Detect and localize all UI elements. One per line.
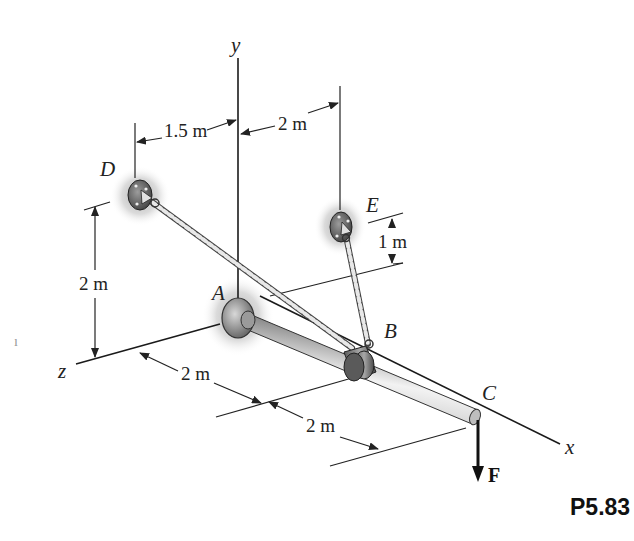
dimension-2m-BC: 2 m [269,402,466,466]
diagram-canvas: y z x 1.5 m 2 m 2 m 1 m 2 m [0,0,634,541]
dimension-1m: 1 m [368,213,407,264]
figure-number: P5.83 [570,494,630,520]
z-axis-label: z [57,359,66,383]
y-axis-label: y [229,33,241,57]
svg-text:2 m: 2 m [79,273,108,294]
force-F: F [472,420,500,486]
force-label: F [488,464,500,486]
point-label-D: D [99,157,115,181]
ref-line-E-level [270,263,403,296]
point-label-E: E [365,193,379,217]
z-axis [76,324,220,364]
svg-text:2 m: 2 m [181,363,210,384]
dimension-1-5m: 1.5 m [137,120,236,142]
bracket-E [330,212,352,242]
point-label-C: C [482,381,497,405]
dimension-2m-top: 2 m [241,103,338,134]
svg-text:1.5 m: 1.5 m [164,120,208,141]
dimension-2m-AB: 2 m [140,353,352,417]
x-axis-label: x [564,435,575,459]
cable-BE [346,236,368,344]
dimension-2m-height: 2 m [79,202,110,357]
statics-diagram: y z x 1.5 m 2 m 2 m 1 m 2 m [0,0,634,541]
svg-text:2 m: 2 m [278,113,307,134]
stray-mark: ı [14,334,18,349]
point-label-B: B [384,319,397,343]
support-A [222,298,255,338]
svg-text:2 m: 2 m [306,415,335,436]
x-axis [260,296,560,444]
point-label-A: A [210,281,225,305]
svg-text:1 m: 1 m [378,231,407,252]
